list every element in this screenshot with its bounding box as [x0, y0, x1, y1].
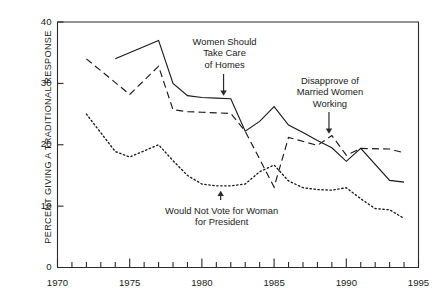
y-tick-label: 0	[30, 261, 52, 272]
annot-homes-arrow	[220, 74, 226, 96]
annot-married-arrow	[326, 112, 332, 134]
series-line-2	[86, 114, 404, 218]
y-tick-label: 20	[30, 138, 52, 149]
x-tick-label: 1995	[399, 277, 439, 288]
annot-married-line-2: Working	[313, 98, 347, 109]
x-tick-label: 1970	[38, 277, 78, 288]
x-tick-label: 1985	[254, 277, 294, 288]
x-axis-minor-ticks	[58, 259, 419, 268]
chart-figure: PERCENT GIVING A TRADITIONAL RESPONSE 01…	[0, 0, 447, 304]
annot-homes-line-0: Women Should	[193, 36, 257, 47]
y-axis-ticks	[58, 22, 64, 268]
y-tick-label: 10	[30, 200, 52, 211]
annot-president-line-0: Would Not Vote for Woman	[165, 205, 278, 216]
series-line-0	[115, 40, 404, 182]
annot-homes-line-1: Take Care	[203, 47, 246, 58]
x-tick-label: 1980	[182, 277, 222, 288]
y-tick-label: 40	[30, 16, 52, 27]
x-tick-label: 1990	[326, 277, 366, 288]
annot-married-line-0: Disapprove of	[301, 75, 359, 86]
x-tick-label: 1975	[110, 277, 150, 288]
y-tick-label: 30	[30, 77, 52, 88]
annot-president-arrow	[217, 191, 223, 200]
annot-married-line-1: Married Women	[297, 86, 364, 97]
annot-president-line-1: for President	[195, 216, 248, 227]
annot-homes-line-2: of Homes	[204, 59, 244, 70]
